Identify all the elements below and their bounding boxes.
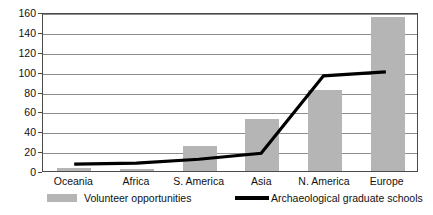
y-tick-label-140: 140 — [6, 28, 36, 38]
legend-label-archaeological-graduate-schools: Archaeological graduate schools — [271, 192, 423, 204]
legend-item-archaeological-graduate-schools: Archaeological graduate schools — [235, 192, 423, 204]
chart-figure: 020406080100120140160 OceaniaAfricaS. Am… — [0, 0, 433, 215]
y-tick-label-20: 20 — [6, 147, 36, 157]
x-tick-label-europe: Europe — [347, 175, 427, 187]
bar-swatch-icon — [47, 194, 77, 202]
chart-legend: Volunteer opportunities Archaeological g… — [0, 192, 433, 210]
y-tick-label-60: 60 — [6, 107, 36, 117]
y-tick-label-80: 80 — [6, 88, 36, 98]
y-tick-label-40: 40 — [6, 127, 36, 137]
plot-area — [42, 13, 418, 172]
y-tick-mark-0 — [38, 172, 42, 173]
y-tick-label-120: 120 — [6, 48, 36, 58]
y-tick-label-0: 0 — [6, 167, 36, 177]
line-series-archaeological-graduate-schools — [43, 14, 417, 171]
line-swatch-icon — [235, 196, 269, 200]
y-tick-label-100: 100 — [6, 68, 36, 78]
y-tick-label-160: 160 — [6, 8, 36, 18]
legend-item-volunteer-opportunities: Volunteer opportunities — [47, 192, 191, 204]
legend-label-volunteer-opportunities: Volunteer opportunities — [84, 192, 191, 204]
